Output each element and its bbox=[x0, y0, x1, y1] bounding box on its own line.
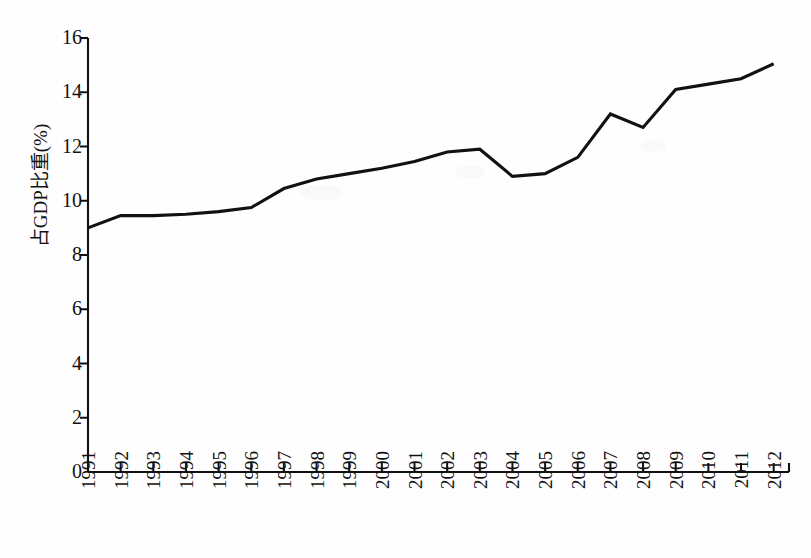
x-axis-tick-marks bbox=[88, 463, 774, 472]
chart-figure: 占GDP比重(%) 0246810121416 1991199219931994… bbox=[0, 0, 811, 558]
y-axis-tick-marks bbox=[80, 38, 88, 418]
data-series-line bbox=[88, 64, 774, 228]
plot-area bbox=[0, 0, 811, 558]
